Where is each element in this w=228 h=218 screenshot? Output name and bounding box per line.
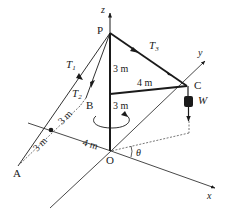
rotation-arrow: [94, 114, 130, 128]
weight-projection-floor: [111, 133, 189, 151]
point-B-label: B: [86, 99, 93, 111]
theta-arc: [131, 146, 132, 157]
point-A-label: A: [13, 167, 21, 179]
y-axis-label: y: [197, 47, 203, 58]
dim-dot-to-B: 3 m: [56, 108, 75, 127]
point-P-label: P: [97, 24, 103, 36]
cable-T2: [86, 33, 110, 98]
weight-W-label: W: [198, 94, 208, 106]
x-axis-label: x: [206, 190, 212, 201]
dim-arm-to-O: 3 m: [113, 100, 129, 111]
dimension-dot: [49, 128, 54, 133]
force-T3-label: T3: [149, 39, 159, 53]
dim-arm-length: 4 m: [137, 77, 153, 88]
force-T2-label: T2: [72, 87, 82, 101]
T2-arrow: [90, 80, 95, 88]
y-axis-negative: [50, 151, 111, 208]
point-C-label: C: [194, 79, 201, 91]
weight-block: [184, 96, 193, 107]
force-T1-label: T1: [66, 58, 76, 72]
rotation-arrowhead: [121, 111, 128, 117]
dim-P-to-arm: 3 m: [113, 63, 129, 74]
z-axis-label: z: [100, 4, 105, 15]
point-O-label: O: [106, 154, 114, 166]
dim-O-to-dot: 4 m: [81, 136, 99, 151]
x-axis: [111, 151, 215, 188]
angle-theta-label: θ: [136, 147, 141, 158]
statics-diagram: z y x P C B A O T1 T2 T3 W 3 m 4 m 3 m 4…: [0, 0, 228, 218]
